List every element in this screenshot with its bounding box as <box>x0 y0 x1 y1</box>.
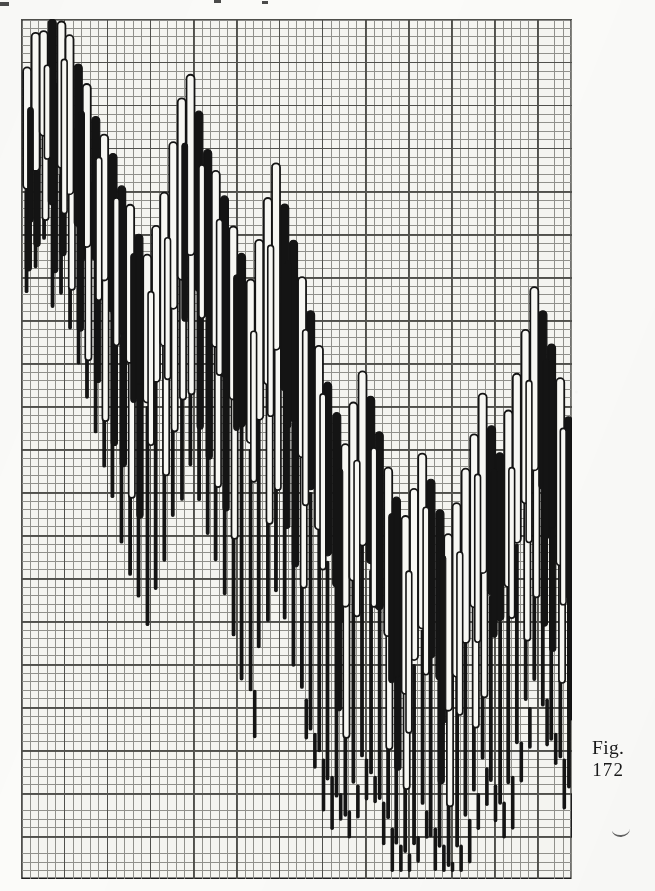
candle-body-up <box>354 460 360 616</box>
candle-lower-wick <box>554 733 558 765</box>
candle-body-down <box>389 514 395 683</box>
candle-body-down <box>285 261 291 428</box>
candle-lower-wick <box>451 862 455 872</box>
candle-lower-wick <box>360 544 364 758</box>
candle-body-up <box>475 474 481 642</box>
candle-body-up <box>251 331 257 482</box>
candle-lower-wick <box>520 741 524 782</box>
candle-body-up <box>61 59 67 213</box>
candle-body-down <box>131 253 137 402</box>
figure-caption-number: 172 <box>592 759 624 781</box>
candle-lower-wick <box>382 802 386 846</box>
candle-lower-wick <box>326 561 330 781</box>
candle-lower-wick <box>463 638 467 816</box>
candle-body-down <box>28 107 34 222</box>
candle-lower-wick <box>459 845 463 873</box>
candle-lower-wick <box>434 827 438 871</box>
candle-body-up <box>371 448 377 607</box>
candle-lower-wick <box>494 784 498 822</box>
edge-tick-mark <box>262 1 268 4</box>
candle-lower-wick <box>429 655 433 837</box>
candle-lower-wick <box>339 793 343 821</box>
candle-lower-wick <box>356 784 360 818</box>
candle-lower-wick <box>425 810 429 839</box>
chart-plot-area <box>21 19 572 879</box>
candle-lower-wick <box>365 759 369 801</box>
candle-body-up <box>165 238 171 380</box>
candle-lower-wick <box>502 802 506 839</box>
candle-lower-wick <box>498 621 502 805</box>
candle-body-down <box>182 143 188 321</box>
candle-lower-wick <box>515 544 519 745</box>
candle-lower-wick <box>412 664 416 845</box>
candle-body-up <box>303 330 309 506</box>
candle-lower-wick <box>563 759 567 810</box>
candlestick-series <box>21 19 572 879</box>
candle-body-up <box>423 507 429 674</box>
stray-ink-mark <box>612 827 631 837</box>
candle-lower-wick <box>416 836 420 863</box>
candle-lower-wick <box>249 449 253 691</box>
candle-body-down <box>79 111 85 262</box>
figure-page: Fig. 172 <box>0 0 655 891</box>
candle-lower-wick <box>253 690 257 738</box>
candle-body-down <box>337 469 343 624</box>
candle-lower-wick <box>545 698 549 746</box>
candle-body-up <box>268 245 274 416</box>
candle-body-up <box>44 65 50 159</box>
candle-lower-wick <box>408 853 412 872</box>
candle-lower-wick <box>528 707 532 749</box>
candle-body-down <box>440 555 446 723</box>
candle-body-down <box>234 275 240 431</box>
candle-lower-wick <box>240 423 244 680</box>
candle-body-down <box>543 359 549 539</box>
candle-body-up <box>217 219 223 375</box>
candle-body-up <box>560 428 566 604</box>
candle-lower-wick <box>305 698 309 739</box>
candle-lower-wick <box>571 793 572 838</box>
candle-lower-wick <box>391 827 395 872</box>
candle-body-up <box>406 571 412 733</box>
candle-lower-wick <box>348 810 352 838</box>
candle-body-up <box>320 394 326 570</box>
candle-lower-wick <box>309 492 313 731</box>
candle-lower-wick <box>511 776 515 830</box>
candle-lower-wick <box>485 767 489 806</box>
candle-lower-wick <box>468 819 472 864</box>
candle-lower-wick <box>322 759 326 812</box>
figure-caption: Fig. 172 <box>592 736 624 781</box>
candle-body-up <box>457 552 463 715</box>
candle-body-up <box>148 292 154 446</box>
candle-body-up <box>509 468 515 619</box>
candle-body-up <box>113 198 119 346</box>
edge-tick-mark <box>214 0 221 3</box>
candle-lower-wick <box>378 604 382 800</box>
candle-lower-wick <box>313 733 317 769</box>
candle-lower-wick <box>399 845 403 873</box>
candle-lower-wick <box>442 845 446 873</box>
candle-lower-wick <box>330 776 334 830</box>
candle-body-up <box>526 381 532 543</box>
candle-body-up <box>96 157 102 300</box>
edge-tick-mark <box>0 2 9 6</box>
figure-caption-label: Fig. <box>592 736 624 759</box>
candle-lower-wick <box>257 415 261 649</box>
candle-lower-wick <box>373 776 377 803</box>
candle-body-down <box>491 469 497 637</box>
candle-body-up <box>199 165 205 318</box>
candle-lower-wick <box>477 793 481 830</box>
